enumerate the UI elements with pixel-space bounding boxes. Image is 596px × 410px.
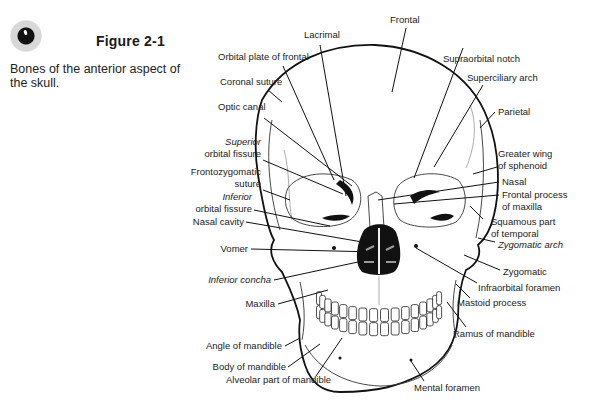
- label-optic-canal: Optic canal: [218, 101, 266, 112]
- leader-frontal: [392, 28, 406, 92]
- label-ramus-of-mandible: Ramus of mandible: [453, 328, 535, 339]
- faint-sutures: [284, 105, 474, 220]
- labels: Frontal Lacrimal Orbital plate of fronta…: [191, 14, 568, 393]
- label-frontozygomatic-1: Frontozygomatic: [191, 166, 261, 177]
- label-superior-orbital-fissure-1: Superior: [225, 136, 262, 147]
- tooth-upper: [402, 307, 410, 320]
- tooth-upper: [420, 302, 427, 315]
- tooth-upper: [370, 309, 378, 322]
- leader-parietal: [480, 112, 495, 128]
- infraorbital-foramen-left: [332, 246, 336, 250]
- label-frontal-process-1: Frontal process: [502, 189, 568, 200]
- tooth-lower: [332, 316, 339, 329]
- label-squamous-2: of temporal: [491, 228, 539, 239]
- label-zygomatic-arch: Zygomatic arch: [497, 239, 563, 250]
- label-inferior-concha: Inferior concha: [208, 274, 271, 285]
- label-superciliary-arch: Superciliary arch: [467, 72, 538, 83]
- label-superior-orbital-fissure-2: orbital fissure: [205, 148, 262, 159]
- tooth-lower: [411, 319, 418, 332]
- label-frontal: Frontal: [390, 14, 420, 25]
- label-supraorbital-notch: Supraorbital notch: [443, 53, 520, 64]
- tooth-lower: [381, 323, 389, 336]
- tooth-lower: [340, 319, 347, 332]
- leader-superciliary: [434, 85, 483, 167]
- label-frontal-process-2: of maxilla: [502, 201, 543, 212]
- label-orbital-plate: Orbital plate of frontal: [218, 51, 309, 62]
- label-angle-of-mandible: Angle of mandible: [206, 340, 282, 351]
- leader-inferior-concha: [274, 262, 358, 280]
- leader-greater-wing: [473, 167, 497, 174]
- label-infraorbital-foramen: Infraorbital foramen: [478, 282, 560, 293]
- label-body-of-mandible: Body of mandible: [213, 361, 286, 372]
- tooth-lower: [402, 321, 410, 334]
- tooth-upper: [411, 305, 418, 318]
- label-coronal-suture: Coronal suture: [220, 76, 282, 87]
- skull-diagram: Frontal Lacrimal Orbital plate of fronta…: [0, 0, 596, 410]
- leader-lacrimal: [320, 45, 346, 196]
- leader-superior-orbital-fissure: [263, 160, 343, 194]
- label-mastoid-process: Mastoid process: [457, 297, 526, 308]
- tooth-upper: [381, 309, 389, 322]
- label-greater-wing-2: of sphenoid: [498, 160, 547, 171]
- left-ramus: [300, 282, 304, 340]
- left-orbit-fissure: [322, 180, 354, 221]
- label-nasal: Nasal: [502, 176, 526, 187]
- temporal-line-right: [476, 120, 483, 238]
- leader-mastoid: [456, 284, 470, 298]
- tooth-lower: [370, 323, 378, 336]
- label-maxilla: Maxilla: [245, 298, 275, 309]
- tooth-upper: [349, 307, 357, 320]
- nasal-bones: [368, 192, 384, 228]
- tooth-lower: [391, 322, 399, 335]
- label-lacrimal: Lacrimal: [304, 29, 340, 40]
- tooth-lower: [349, 321, 357, 334]
- tooth-lower: [437, 306, 442, 319]
- tooth-upper: [332, 302, 339, 315]
- label-greater-wing-1: Greater wing: [498, 148, 552, 159]
- label-alveolar-part: Alveolar part of mandible: [226, 374, 331, 385]
- leader-frontal-process: [394, 195, 499, 204]
- tooth-lower: [420, 316, 427, 329]
- label-squamous-1: Squamous part: [491, 216, 556, 227]
- leader-vomer: [251, 249, 376, 252]
- tooth-upper: [391, 308, 399, 321]
- mental-foramen-left: [339, 357, 342, 360]
- right-orbit: [394, 174, 466, 227]
- tooth-lower: [325, 313, 331, 326]
- tooth-upper: [325, 299, 331, 312]
- tooth-upper: [437, 292, 442, 305]
- leader-coronal-suture: [268, 90, 282, 102]
- label-frontozygomatic-2: suture: [235, 178, 261, 189]
- label-mental-foramen: Mental foramen: [414, 382, 480, 393]
- infraorbital-foramen-right: [414, 244, 418, 248]
- label-nasal-cavity: Nasal cavity: [193, 216, 244, 227]
- tooth-lower: [359, 322, 367, 335]
- leader-angle-mandible: [285, 338, 300, 346]
- label-inferior-orbital-fissure-1: Inferior: [222, 191, 252, 202]
- label-parietal: Parietal: [498, 106, 530, 117]
- tooth-upper: [340, 305, 347, 318]
- label-vomer: Vomer: [221, 243, 248, 254]
- label-inferior-orbital-fissure-2: orbital fissure: [196, 203, 253, 214]
- tooth-upper: [359, 308, 367, 321]
- label-zygomatic: Zygomatic: [503, 266, 547, 277]
- leader-inferior-orbital-fissure: [254, 210, 330, 226]
- leader-infraorbital: [416, 248, 477, 283]
- leader-nasal: [378, 182, 499, 200]
